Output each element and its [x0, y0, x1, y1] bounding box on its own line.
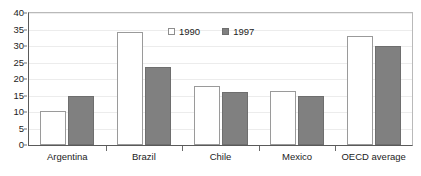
bar-brazil-1990 — [117, 32, 143, 145]
legend-item-1990[interactable]: 1990 — [168, 27, 200, 37]
y-tick-mark — [24, 112, 27, 113]
y-tick-mark — [24, 79, 27, 80]
y-tick-label: 20 — [13, 74, 24, 84]
bar-mexico-1997 — [298, 96, 324, 145]
chart-legend: 1990 1997 — [168, 27, 254, 37]
bar-mexico-1990 — [270, 91, 296, 145]
y-tick-label: 15 — [13, 91, 24, 101]
x-tick-label: Brazil — [132, 152, 156, 162]
bar-oecd-average-1990 — [347, 36, 373, 145]
category-separator-tick — [106, 146, 107, 151]
y-tick-label: 40 — [13, 8, 24, 18]
y-tick-label: 30 — [13, 41, 24, 51]
x-tick-label: Mexico — [282, 152, 312, 162]
category-separator-tick — [335, 146, 336, 151]
filled-square-swatch-icon — [222, 28, 229, 35]
bar-oecd-average-1997 — [375, 46, 401, 145]
legend-label: 1997 — [233, 27, 254, 37]
x-tick-label: Chile — [210, 152, 232, 162]
y-tick-mark — [24, 95, 27, 96]
bar-brazil-1997 — [145, 67, 171, 145]
bar-argentina-1990 — [40, 111, 66, 145]
bar-chart-figure: 0510152025303540 ArgentinaBrazilChileMex… — [0, 0, 421, 176]
bar-chile-1990 — [194, 86, 220, 145]
y-axis: 0510152025303540 — [0, 12, 24, 146]
y-tick-mark — [24, 46, 27, 47]
y-tick-label: 10 — [13, 107, 24, 117]
y-tick-mark — [24, 29, 27, 30]
y-tick-label: 25 — [13, 58, 24, 68]
legend-item-1997[interactable]: 1997 — [222, 27, 254, 37]
bar-chile-1997 — [222, 92, 248, 145]
x-axis: ArgentinaBrazilChileMexicoOECD average — [29, 152, 412, 170]
cropped-title-remnant — [36, 0, 376, 4]
y-tick-mark — [24, 62, 27, 63]
y-tick-mark — [24, 145, 27, 146]
y-tick-mark — [24, 128, 27, 129]
legend-label: 1990 — [179, 27, 200, 37]
bar-argentina-1997 — [68, 96, 94, 146]
y-tick-label: 35 — [13, 25, 24, 35]
x-tick-label: Argentina — [47, 152, 88, 162]
x-tick-label: OECD average — [341, 152, 405, 162]
y-tick-mark — [24, 13, 27, 14]
open-square-swatch-icon — [168, 28, 175, 35]
category-separator-tick — [259, 146, 260, 151]
category-separator-tick — [182, 146, 183, 151]
